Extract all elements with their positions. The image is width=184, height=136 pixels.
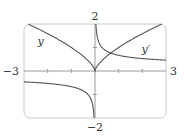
labels: −3 3 2 −2 y y′ <box>3 10 177 134</box>
series-label-y-prime: y′ <box>141 43 151 56</box>
chart: −3 3 2 −2 y y′ <box>0 0 184 136</box>
x-min-label: −3 <box>3 65 19 78</box>
y-max-label: 2 <box>92 10 99 23</box>
y-min-label: −2 <box>87 121 103 134</box>
series-y-prime-right <box>96 24 166 60</box>
series-y-prime-left <box>24 82 94 118</box>
x-max-label: 3 <box>170 65 177 78</box>
series-label-y: y <box>36 35 44 48</box>
